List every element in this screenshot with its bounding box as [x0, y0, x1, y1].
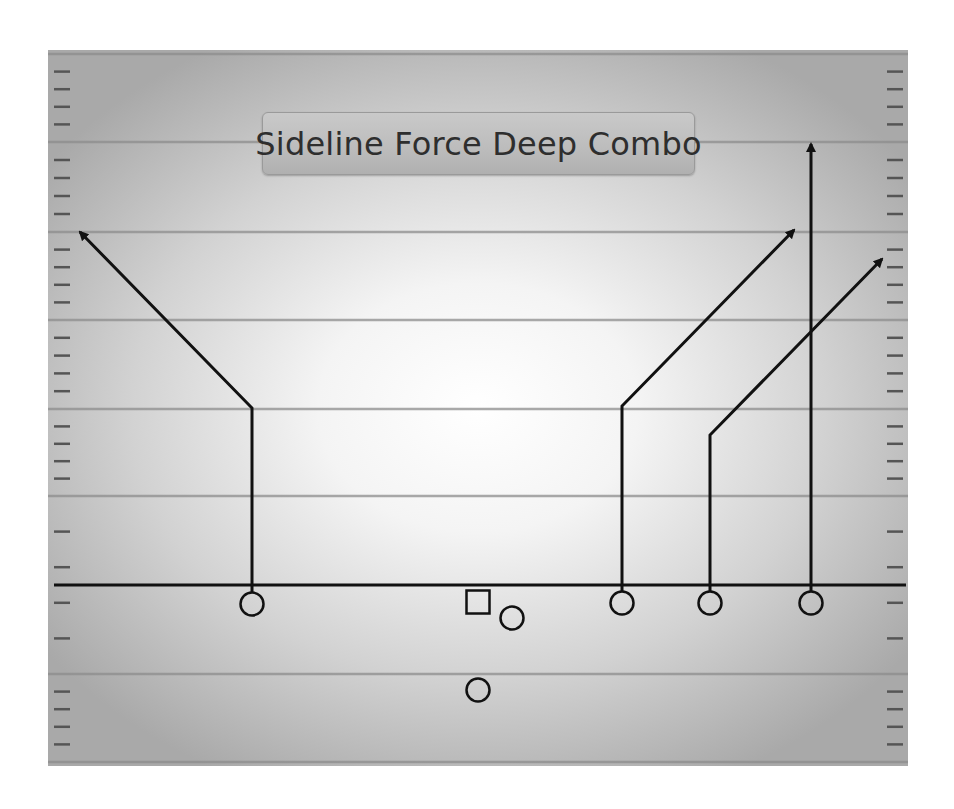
slot-corner-route — [622, 230, 794, 591]
left-corner-route — [80, 232, 252, 592]
play-title-box: Sideline Force Deep Combo — [262, 112, 695, 175]
players — [241, 591, 823, 702]
player-wr-slot-2-circle — [699, 592, 722, 615]
player-rb-circle — [467, 679, 490, 702]
slot-out-corner-route — [710, 259, 882, 591]
routes — [80, 144, 882, 592]
player-center-square — [467, 591, 490, 614]
player-wr-slot-1-circle — [611, 592, 634, 615]
player-wr-right-circle — [800, 592, 823, 615]
play-title: Sideline Force Deep Combo — [255, 125, 701, 163]
player-wr-left-circle — [241, 593, 264, 616]
player-qb-circle — [501, 607, 524, 630]
